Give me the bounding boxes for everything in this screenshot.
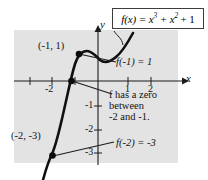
point-marker-zero [68,78,75,85]
point-label-neg1-1: (-1, 1) [38,41,64,52]
formula-prefix: f(x) = x [121,13,153,25]
callout-zero-line3: -2 and -1. [109,112,157,123]
formula-suffix: + 1 [178,13,195,25]
y-tick-label-neg3: -3 [85,147,93,157]
point-marker-neg1-1 [76,51,83,58]
y-tick-label-neg2: -2 [85,124,93,134]
formula-middle: + x [157,13,174,25]
formula-text: f(x) = x3 + x2 + 1 [121,12,195,25]
callout-f-neg1: f(-1) = 1 [116,57,152,68]
y-axis-label: y [100,19,105,30]
formula-callout-box: f(x) = x3 + x2 + 1 [112,8,204,29]
callout-zero-statement: f has a zero between -2 and -1. [109,90,157,123]
point-marker-neg2-neg3 [49,152,56,159]
x-tick-label-neg2: -2 [45,84,53,94]
point-label-neg2-neg3: (-2, -3) [11,131,41,142]
y-tick-label-neg1: -1 [85,100,93,110]
callout-f-neg2: f(-2) = -3 [116,138,156,149]
figure-container: f(x) = x3 + x2 + 1 -2 1 2 -1 -2 -3 x y (… [0,0,208,180]
x-axis-label: x [186,73,191,84]
